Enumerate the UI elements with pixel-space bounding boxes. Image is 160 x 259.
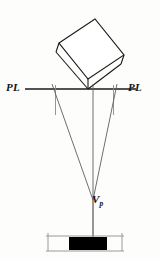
label-vanishing-point-main: V	[92, 193, 100, 205]
right-projection-line	[93, 84, 117, 200]
label-vanishing-point-subscript: p	[100, 199, 104, 208]
label-pl-left: PL	[6, 81, 20, 93]
black-bar	[69, 237, 107, 250]
label-pl-right: PL	[128, 81, 142, 93]
perspective-diagram: PL PL Vp	[0, 0, 160, 259]
projection-lines-group	[52, 84, 117, 200]
container-group	[46, 233, 124, 251]
diagram-canvas	[0, 0, 160, 259]
tilted-box-left-edge	[56, 43, 59, 52]
left-projection-line	[52, 84, 93, 200]
label-vanishing-point: Vp	[92, 193, 104, 208]
tilted-box-group	[56, 19, 124, 89]
tilted-box-top-face	[59, 19, 124, 79]
